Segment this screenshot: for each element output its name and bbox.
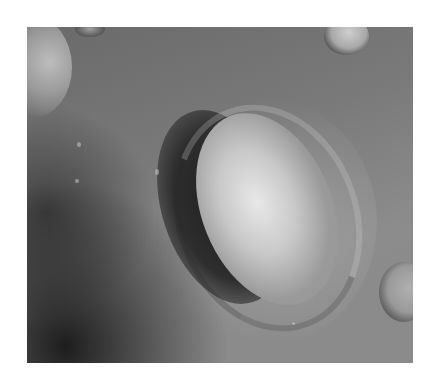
crater-bottom-right xyxy=(379,262,413,322)
crater-top-left xyxy=(27,27,72,117)
crater-top-right xyxy=(324,27,369,55)
surface-speck xyxy=(77,142,81,147)
surface-speck xyxy=(292,322,295,325)
crater-top xyxy=(75,27,105,37)
surface-speck xyxy=(155,169,159,175)
surface-speck xyxy=(75,179,79,183)
satellite-photo xyxy=(27,27,413,363)
